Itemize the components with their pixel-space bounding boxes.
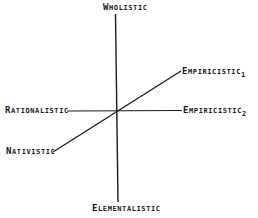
label-elementalistic: Elementalistic	[92, 204, 161, 213]
label-nativistic: Nativistic	[6, 147, 55, 156]
label-empiricistic-2: Empiricistic2	[183, 106, 246, 115]
label-wholistic: Wholistic	[103, 3, 148, 12]
horizontal-axis-line	[67, 111, 182, 112]
vertical-axis-line	[116, 14, 119, 202]
label-empiricistic-1: Empiricistic1	[182, 67, 245, 76]
label-rationalistic: Rationalistic	[5, 106, 69, 115]
